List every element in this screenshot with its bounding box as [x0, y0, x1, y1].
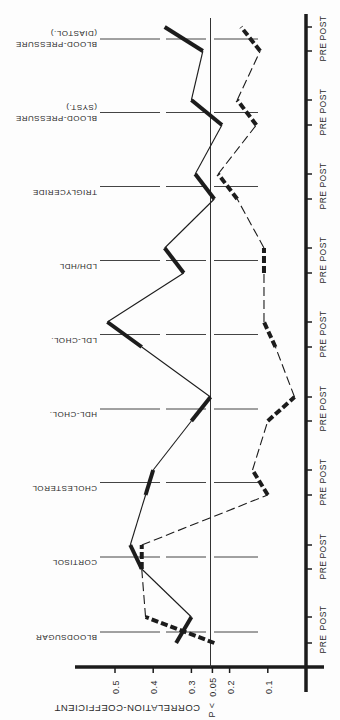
- dashed-series-connector: [218, 125, 256, 174]
- post-label: POST: [318, 236, 328, 261]
- pre-label: PRE: [318, 117, 328, 136]
- pre-label: PRE: [318, 191, 328, 210]
- pre-label: PRE: [318, 43, 328, 62]
- category-label: LDL-CHOL.: [51, 336, 97, 345]
- value-tick-label: 0.4: [149, 680, 159, 694]
- value-tick-label: 0.1: [264, 680, 274, 694]
- pre-label: PRE: [318, 265, 328, 284]
- category-label: (DIASTOL.): [50, 29, 97, 38]
- solid-series-connector: [165, 199, 215, 248]
- post-label: POST: [318, 15, 328, 40]
- dashed-series-prepost-segment: [264, 322, 275, 347]
- post-label: POST: [318, 385, 328, 410]
- pre-label: PRE: [318, 413, 328, 432]
- dashed-series-connector: [237, 199, 264, 248]
- category-label: LDH/HDL: [59, 262, 97, 271]
- solid-series-connector: [153, 421, 191, 470]
- value-tick-label: 0.3: [187, 680, 197, 694]
- category-label: BLOOD-PRESSURE: [15, 114, 97, 123]
- dashed-series-connector: [275, 347, 294, 397]
- post-label: POST: [318, 310, 328, 335]
- axis-title: CORRELATION-COEFFICIENT: [54, 703, 200, 714]
- dashed-series-connector: [237, 51, 260, 100]
- solid-series-connector: [142, 347, 211, 397]
- category-label: CHOLESTEROL: [32, 484, 97, 493]
- chart-root: 0.50.40.30.050.20.1CORRELATION-COEFFICIE…: [0, 0, 340, 720]
- category-label: (SYST.): [66, 103, 97, 112]
- category-label: HDL-CHOL.: [49, 410, 97, 419]
- correlation-chart: 0.50.40.30.050.20.1CORRELATION-COEFFICIE…: [0, 0, 340, 720]
- post-label: POST: [318, 162, 328, 187]
- post-label: POST: [318, 88, 328, 113]
- category-label: CORTISOL: [52, 558, 97, 567]
- dashed-series-connector: [253, 421, 268, 470]
- pre-label: PRE: [318, 635, 328, 654]
- solid-series-connector: [130, 495, 145, 545]
- category-label: TRIGLYCERIDE: [32, 188, 97, 197]
- post-label: POST: [318, 533, 328, 558]
- solid-series-connector: [191, 51, 202, 100]
- dashed-series-connector: [142, 495, 268, 545]
- dashed-series-prepost-segment: [268, 397, 295, 421]
- solid-series-connector: [142, 569, 192, 617]
- value-tick-label: 0.5: [111, 680, 121, 694]
- pre-label: PRE: [318, 561, 328, 580]
- pre-label: PRE: [318, 487, 328, 506]
- pre-label: PRE: [318, 339, 328, 358]
- value-tick-label: 0.2: [226, 680, 236, 694]
- post-label: POST: [318, 605, 328, 630]
- value-tick-label: 0.05: [208, 677, 218, 697]
- category-label: BLOODSUGAR: [36, 633, 97, 642]
- solid-series-connector: [107, 273, 183, 322]
- dashed-series-connector: [142, 569, 146, 617]
- category-label: BLOOD-PRESSURE: [15, 40, 97, 49]
- significance-label: P <: [207, 702, 217, 717]
- post-label: POST: [318, 458, 328, 483]
- solid-series-connector: [195, 125, 222, 174]
